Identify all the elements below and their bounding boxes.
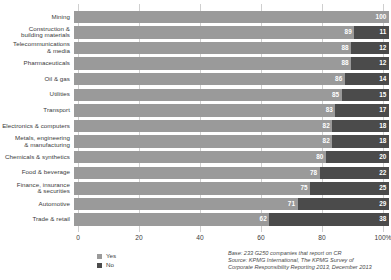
stacked-bar[interactable]: 8911 (74, 26, 389, 38)
bar-segment-yes[interactable]: 75 (74, 182, 310, 194)
bar-segment-no[interactable]: 18 (332, 135, 389, 147)
bar-segment-yes[interactable]: 83 (74, 104, 335, 116)
bar-segment-yes[interactable]: 78 (74, 167, 320, 179)
bar-segment-no[interactable]: 38 (269, 213, 389, 225)
plot-area: Mining100Construction &building material… (0, 0, 389, 232)
stacked-bar[interactable]: 8218 (74, 135, 389, 147)
bar-row: Trade & retail6238 (0, 212, 389, 228)
category-label-line: Utilities (50, 91, 70, 98)
legend-label-no: No (106, 262, 114, 268)
bar-row: Telecommunications& media8812 (0, 40, 389, 56)
footnote-source-line1: Source: KPMG International, The KPMG Sur… (228, 257, 386, 264)
bar-value-yes: 71 (288, 201, 295, 207)
bar-value-yes: 100 (376, 14, 387, 20)
stacked-bar[interactable]: 7525 (74, 182, 389, 194)
legend-item-yes[interactable]: Yes (97, 252, 116, 261)
bar-segment-yes[interactable]: 88 (74, 57, 351, 69)
x-axis-tick: 40 (196, 234, 203, 241)
bar-segment-no[interactable]: 25 (310, 182, 389, 194)
bar-row: Electronics & computers8218 (0, 118, 389, 134)
stacked-bar[interactable]: 8218 (74, 120, 389, 132)
category-label-line: & securities (37, 188, 70, 195)
category-label: Telecommunications& media (0, 40, 74, 56)
bar-value-no: 20 (379, 154, 386, 160)
bar-track: 8614 (74, 71, 389, 87)
x-axis-tick: 100% (375, 234, 391, 241)
category-label-line: Transport (43, 107, 70, 114)
bar-rows: Mining100Construction &building material… (0, 9, 389, 227)
bar-row: Finance, insurance& securities7525 (0, 181, 389, 197)
bar-segment-yes[interactable]: 82 (74, 135, 332, 147)
footnote-source-line2: Corporate Responsibility Reporting 2013,… (228, 264, 386, 271)
bar-row: Pharmaceuticals8812 (0, 56, 389, 72)
category-label-line: Oil & gas (44, 76, 70, 83)
bar-track: 8911 (74, 25, 389, 41)
bar-segment-yes[interactable]: 100 (74, 11, 389, 23)
bar-segment-yes[interactable]: 86 (74, 73, 345, 85)
category-label: Utilities (0, 87, 74, 103)
bar-segment-yes[interactable]: 85 (74, 89, 342, 101)
category-label: Metals, engineering& manufacturing (0, 134, 74, 150)
stacked-bar[interactable]: 7822 (74, 167, 389, 179)
stacked-bar[interactable]: 8614 (74, 73, 389, 85)
bar-track: 8020 (74, 149, 389, 165)
x-axis-tick: 20 (135, 234, 142, 241)
bar-segment-yes[interactable]: 62 (74, 213, 269, 225)
bar-segment-no[interactable]: 29 (298, 198, 389, 210)
bar-segment-no[interactable]: 20 (326, 151, 389, 163)
stacked-bar[interactable]: 7129 (74, 198, 389, 210)
stacked-bar[interactable]: 8317 (74, 104, 389, 116)
bar-value-yes: 83 (326, 107, 333, 113)
stacked-bar[interactable]: 8020 (74, 151, 389, 163)
bar-value-yes: 75 (300, 185, 307, 191)
bar-segment-yes[interactable]: 89 (74, 26, 354, 38)
category-label-line: Food & beverage (22, 169, 70, 176)
bar-value-no: 29 (379, 201, 386, 207)
category-label: Mining (0, 9, 74, 25)
legend-item-no[interactable]: No (97, 261, 116, 270)
category-label: Oil & gas (0, 71, 74, 87)
bar-value-yes: 88 (341, 60, 348, 66)
x-axis-tick: 60 (257, 234, 264, 241)
bar-segment-no[interactable]: 11 (354, 26, 389, 38)
bar-track: 8515 (74, 87, 389, 103)
bar-value-no: 38 (379, 216, 386, 222)
bar-segment-no[interactable]: 18 (332, 120, 389, 132)
bar-track: 6238 (74, 212, 389, 228)
stacked-bar[interactable]: 6238 (74, 213, 389, 225)
bar-segment-no[interactable]: 12 (351, 57, 389, 69)
stacked-bar[interactable]: 8515 (74, 89, 389, 101)
category-label-line: Trade & retail (32, 216, 70, 223)
bar-row: Oil & gas8614 (0, 71, 389, 87)
category-label-line: & media (47, 48, 70, 55)
bar-segment-yes[interactable]: 82 (74, 120, 332, 132)
bar-track: 8218 (74, 118, 389, 134)
footnote: Base: 233 G250 companies that report on … (228, 250, 386, 271)
bar-segment-no[interactable]: 17 (335, 104, 389, 116)
bar-value-yes: 86 (335, 76, 342, 82)
bar-segment-no[interactable]: 12 (351, 42, 389, 54)
footnote-base: Base: 233 G250 companies that report on … (228, 250, 386, 257)
category-label-line: Chemicals & synthetics (5, 154, 70, 161)
bar-segment-yes[interactable]: 71 (74, 198, 298, 210)
category-label-line: Pharmaceuticals (24, 60, 71, 67)
bar-row: Metals, engineering& manufacturing8218 (0, 134, 389, 150)
bar-segment-no[interactable]: 14 (345, 73, 389, 85)
category-label: Food & beverage (0, 165, 74, 181)
bar-track: 7129 (74, 196, 389, 212)
bar-track: 8812 (74, 56, 389, 72)
x-axis-tick: 0 (76, 234, 80, 241)
bar-segment-no[interactable]: 22 (320, 167, 389, 179)
stacked-bar[interactable]: 8812 (74, 42, 389, 54)
bar-segment-yes[interactable]: 80 (74, 151, 326, 163)
bar-value-no: 12 (379, 60, 386, 66)
bar-row: Automotive7129 (0, 196, 389, 212)
bar-value-no: 14 (379, 76, 386, 82)
bar-segment-yes[interactable]: 88 (74, 42, 351, 54)
category-label: Pharmaceuticals (0, 56, 74, 72)
stacked-bar[interactable]: 8812 (74, 57, 389, 69)
category-label: Electronics & computers (0, 118, 74, 134)
bar-segment-no[interactable]: 15 (342, 89, 389, 101)
stacked-bar[interactable]: 100 (74, 11, 389, 23)
